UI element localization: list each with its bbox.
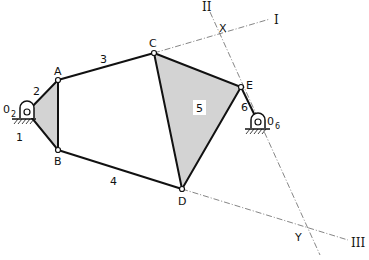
label-link-2: 2 xyxy=(33,85,40,98)
mechanism-diagram: A B C D E 0 2 0 6 1 2 3 4 5 6 I II III X… xyxy=(0,0,369,260)
label-B: B xyxy=(54,155,62,168)
label-O2-sub: 2 xyxy=(11,110,16,119)
linkage-drawing: A B C D E 0 2 0 6 1 2 3 4 5 6 I II III X… xyxy=(0,0,369,260)
label-link-4: 4 xyxy=(110,175,117,188)
label-C: C xyxy=(149,37,157,50)
label-link-6: 6 xyxy=(241,101,248,114)
label-link-3: 3 xyxy=(100,53,107,66)
label-line-II: II xyxy=(202,0,212,14)
label-Y: Y xyxy=(294,231,302,244)
line-II xyxy=(210,12,320,255)
joint-E xyxy=(239,85,244,90)
label-O2: 0 xyxy=(3,103,10,116)
label-A: A xyxy=(54,65,62,78)
joint-D xyxy=(180,187,185,192)
joint-O2 xyxy=(24,109,30,115)
link-4 xyxy=(58,150,182,189)
line-I xyxy=(154,19,270,53)
joint-B xyxy=(56,148,61,153)
label-O6: 0 xyxy=(267,115,274,128)
label-link-1: 1 xyxy=(16,131,23,144)
joint-O6 xyxy=(255,119,261,125)
line-III xyxy=(182,189,348,240)
joint-C xyxy=(152,51,157,56)
label-link-5: 5 xyxy=(196,102,203,115)
joint-A xyxy=(56,78,61,83)
label-line-I: I xyxy=(274,13,279,27)
label-X: X xyxy=(219,22,227,35)
label-line-III: III xyxy=(351,236,365,250)
label-O6-sub: 6 xyxy=(275,122,280,131)
link-5-triangle xyxy=(154,53,241,189)
label-D: D xyxy=(178,195,186,208)
label-E: E xyxy=(246,79,253,92)
